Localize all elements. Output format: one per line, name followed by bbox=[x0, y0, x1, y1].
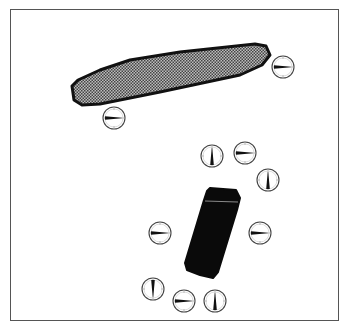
compass bbox=[249, 222, 271, 244]
shaded-bar-magnet bbox=[72, 44, 270, 105]
compass bbox=[173, 290, 195, 312]
compass bbox=[142, 278, 164, 300]
compass bbox=[234, 142, 256, 164]
compass bbox=[257, 169, 279, 191]
compass bbox=[149, 222, 171, 244]
compass bbox=[272, 56, 294, 78]
compass bbox=[201, 145, 223, 167]
magnetic-field-diagram bbox=[0, 0, 350, 334]
compass bbox=[103, 107, 125, 129]
compass bbox=[204, 290, 226, 312]
